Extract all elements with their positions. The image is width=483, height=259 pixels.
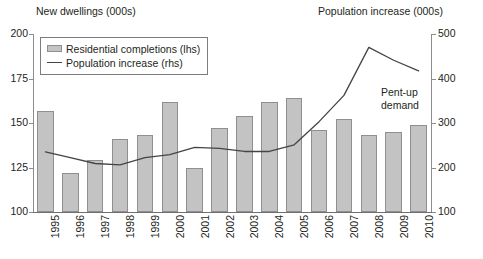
x-axis-label: 2000 [174,215,186,238]
left-tick-label: 175 [10,72,28,84]
right-tick [432,79,436,80]
left-axis-title: New dwellings (000s) [36,5,136,17]
legend-label: Population increase (rhs) [66,57,183,69]
annotation-line-1: Pent-up [381,86,419,99]
chart-figure: New dwellings (000s) Population increase… [0,0,483,259]
legend-line-swatch-icon [47,62,62,63]
right-axis-title: Population increase (000s) [318,5,443,17]
x-axis-label: 1996 [74,215,86,238]
right-tick-label: 500 [438,27,456,39]
x-axis-label: 2010 [423,215,435,238]
x-axis-label: 1999 [149,215,161,238]
x-axis-label: 2001 [199,215,211,238]
left-tick-label: 150 [10,116,28,128]
pent-up-demand-annotation: Pent-up demand [381,86,419,111]
legend-label: Residential completions (lhs) [66,43,200,55]
right-tick [432,168,436,169]
right-tick [432,123,436,124]
x-axis-label: 2006 [323,215,335,238]
annotation-line-2: demand [381,99,419,112]
x-axis-label: 2005 [298,215,310,238]
right-tick-label: 100 [438,205,456,217]
x-axis-label: 2009 [398,215,410,238]
x-axis-label: 1998 [124,215,136,238]
x-axis-label: 2002 [224,215,236,238]
legend-bar-swatch-icon [47,45,62,52]
x-axis-label: 2004 [273,215,285,238]
left-tick [29,212,33,213]
right-tick [432,212,436,213]
right-tick-label: 300 [438,116,456,128]
left-tick-label: 200 [10,27,28,39]
legend-item[interactable]: Residential completions (lhs) [47,42,200,55]
x-axis-label: 2008 [373,215,385,238]
right-tick [432,34,436,35]
left-tick-label: 100 [10,205,28,217]
right-tick-label: 400 [438,72,456,84]
x-axis-line [33,212,432,213]
x-axis-label: 2003 [248,215,260,238]
legend-item[interactable]: Population increase (rhs) [47,56,200,69]
chart-legend: Residential completions (lhs)Population … [40,37,208,75]
x-axis-label: 1995 [49,215,61,238]
right-tick-label: 200 [438,161,456,173]
left-tick-label: 125 [10,161,28,173]
x-axis-label: 1997 [99,215,111,238]
x-axis-label: 2007 [348,215,360,238]
